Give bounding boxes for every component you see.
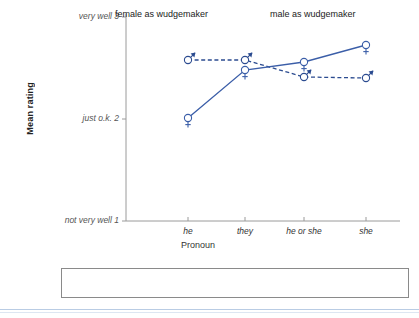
series-female-line [188,45,366,118]
marker-female-she [362,41,369,54]
bottom-divider [0,309,419,310]
marker-female-he [184,114,191,127]
legend-label-male: male as wudgemaker [270,9,356,19]
marker-male-he [184,53,195,64]
series-female-as-wudgemaker [184,41,369,127]
bottom-divider-secondary [0,312,419,313]
marker-male-he-or-she [300,70,311,81]
series-male-line [188,60,366,78]
marker-female-he-or-she [300,58,307,71]
series-male-as-wudgemaker [184,53,373,82]
marker-male-she [362,71,373,82]
legend-label-female: female as wudgemaker [115,9,208,19]
legend-box [61,268,409,298]
chart-figure: Mean rating very well 3 just o.k. 2 not … [0,0,419,318]
marker-female-they [241,66,248,79]
